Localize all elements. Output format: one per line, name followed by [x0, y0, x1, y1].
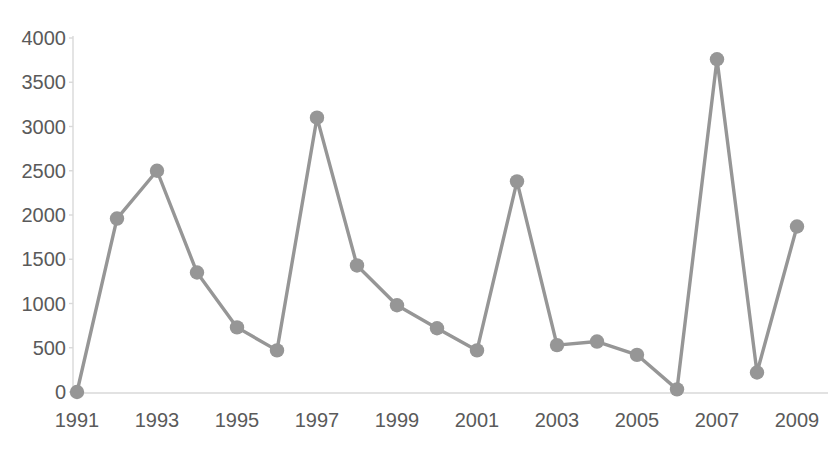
x-axis-tick-label: 1999 — [375, 410, 420, 430]
x-axis-tick-label: 2009 — [775, 410, 820, 430]
x-axis-tick-label: 1997 — [295, 410, 340, 430]
x-axis-tick-label: 1993 — [135, 410, 180, 430]
x-axis-tick-label: 2001 — [455, 410, 500, 430]
x-axis-tick-label: 1995 — [215, 410, 260, 430]
x-axis-tick-label: 1991 — [55, 410, 100, 430]
x-axis-tick-label: 2003 — [535, 410, 580, 430]
x-axis-tick-label: 2007 — [695, 410, 740, 430]
line-chart: Number of items reported annually (parti… — [0, 0, 831, 449]
x-axis-labels: 1991199319951997199920012003200520072009 — [0, 0, 831, 449]
x-axis-tick-label: 2005 — [615, 410, 660, 430]
